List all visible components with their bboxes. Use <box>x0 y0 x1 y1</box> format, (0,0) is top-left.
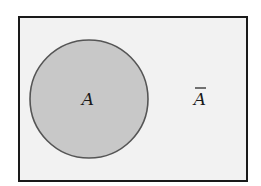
venn-diagram: A A <box>0 0 261 186</box>
set-a-label: A <box>80 89 94 109</box>
complement-label: A <box>192 89 206 109</box>
